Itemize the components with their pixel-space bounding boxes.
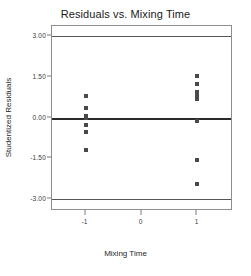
x-tick-mark xyxy=(140,210,141,215)
data-point xyxy=(195,182,199,186)
x-tick-mark xyxy=(196,210,197,215)
data-point xyxy=(84,148,88,152)
x-axis: -101 xyxy=(51,210,232,232)
data-point xyxy=(195,82,199,86)
data-point xyxy=(84,130,88,134)
data-point xyxy=(195,97,199,101)
residuals-scatter-figure: Residuals vs. Mixing Time Studentized Re… xyxy=(0,0,251,276)
y-tick-label: -1.50 xyxy=(30,154,46,161)
y-tick-label: -3.00 xyxy=(30,195,46,202)
y-axis: 3.001.500.00-1.50-3.00 xyxy=(0,25,51,210)
x-axis-title: Mixing Time xyxy=(0,249,251,258)
plot-area xyxy=(51,25,232,210)
data-point xyxy=(84,123,88,127)
y-tick-label: 3.00 xyxy=(33,31,46,38)
data-point xyxy=(195,158,199,162)
data-point xyxy=(84,94,88,98)
x-tick-mark xyxy=(84,210,85,215)
reference-line-0 xyxy=(52,118,231,120)
reference-line--3 xyxy=(52,199,231,200)
x-tick-label: 1 xyxy=(195,218,199,225)
data-point xyxy=(195,119,199,123)
data-point xyxy=(84,116,88,120)
x-tick-label: -1 xyxy=(82,218,88,225)
data-point xyxy=(195,74,199,78)
x-tick-label: 0 xyxy=(139,218,143,225)
reference-line-3 xyxy=(52,36,231,37)
y-tick-label: 0.00 xyxy=(33,113,46,120)
data-point xyxy=(84,106,88,110)
y-tick-label: 1.50 xyxy=(33,72,46,79)
chart-title: Residuals vs. Mixing Time xyxy=(0,8,251,20)
